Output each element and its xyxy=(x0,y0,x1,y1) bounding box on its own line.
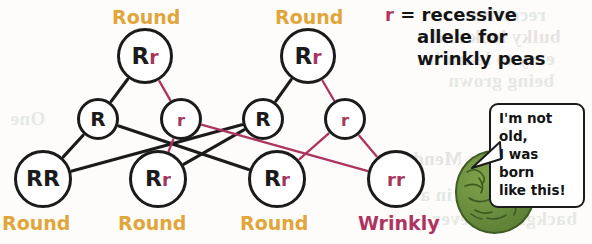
allele-r: r xyxy=(312,46,321,68)
pedigree-edge-g4-o4 xyxy=(359,136,376,156)
legend-text-recessive: recessive xyxy=(422,4,518,25)
genotype-node-g2: r xyxy=(160,98,202,140)
legend: r = recessive allele for wrinkly peas xyxy=(385,4,585,70)
phenotype-label-bottom: Round xyxy=(240,212,308,234)
allele-R: R xyxy=(131,43,149,69)
genotype-node-g3: R xyxy=(242,98,284,140)
phenotype-label-bottom: Round xyxy=(118,212,186,234)
allele-R: R xyxy=(26,166,43,191)
legend-line-3: wrinkly peas xyxy=(385,48,585,70)
genotype-label: Rr xyxy=(264,168,290,190)
genotype-label: Rr xyxy=(131,45,158,68)
allele-r: r xyxy=(396,169,405,190)
genotype-label: Rr xyxy=(294,45,321,68)
genotype-node-g1: R xyxy=(77,98,119,140)
genotype-label: rr xyxy=(387,168,405,190)
pedigree-edge-p1-g1 xyxy=(111,79,128,101)
genotype-node-p1: Rr xyxy=(117,28,173,84)
phenotype-label-top: Round xyxy=(275,6,343,28)
allele-r: r xyxy=(149,46,158,68)
allele-R: R xyxy=(264,166,281,191)
genotype-node-g4: r xyxy=(324,98,366,140)
speech-bubble-line-3: like this! xyxy=(499,182,576,200)
allele-r: r xyxy=(162,169,171,190)
genotype-node-o1: RR xyxy=(14,150,72,208)
genotype-node-o2: Rr xyxy=(129,150,187,208)
inheritance-diagram-scene: recessivebulky look andeasy to learn itb… xyxy=(0,0,592,244)
phenotype-label-bottom: Wrinkly xyxy=(358,212,440,234)
genotype-node-o3: Rr xyxy=(248,150,306,208)
speech-bubble-line-1: I'm not old, xyxy=(499,110,576,146)
legend-equals-sign: = xyxy=(400,4,415,25)
allele-r: r xyxy=(177,111,185,130)
genotype-label: R xyxy=(90,109,105,129)
allele-R: R xyxy=(255,107,270,131)
pedigree-edge-p1-g2 xyxy=(159,81,170,100)
phenotype-label-bottom: Round xyxy=(2,212,70,234)
allele-R: R xyxy=(145,166,162,191)
legend-line-2: allele for xyxy=(385,26,585,48)
speech-bubble-line-2: I was born xyxy=(499,146,576,182)
pedigree-edge-p2-g4 xyxy=(323,81,334,100)
phenotype-label-top: Round xyxy=(112,6,180,28)
legend-allele-symbol: r xyxy=(385,4,394,25)
pedigree-edge-g1-o1 xyxy=(63,135,83,157)
allele-R: R xyxy=(90,107,105,131)
allele-r: r xyxy=(387,169,396,190)
genotype-node-p2: Rr xyxy=(280,28,336,84)
genotype-label: r xyxy=(341,109,349,129)
genotype-label: r xyxy=(177,109,185,129)
legend-line-1: r = recessive xyxy=(385,4,585,26)
allele-R: R xyxy=(294,43,312,69)
genotype-node-o4: rr xyxy=(367,150,425,208)
genotype-label: RR xyxy=(26,168,60,190)
pedigree-edge-p2-g3 xyxy=(276,80,291,101)
genotype-label: Rr xyxy=(145,168,171,190)
allele-R: R xyxy=(43,166,60,191)
genotype-label: R xyxy=(255,109,270,129)
allele-r: r xyxy=(341,111,349,130)
allele-r: r xyxy=(281,169,290,190)
speech-bubble-tail-icon xyxy=(470,138,504,172)
